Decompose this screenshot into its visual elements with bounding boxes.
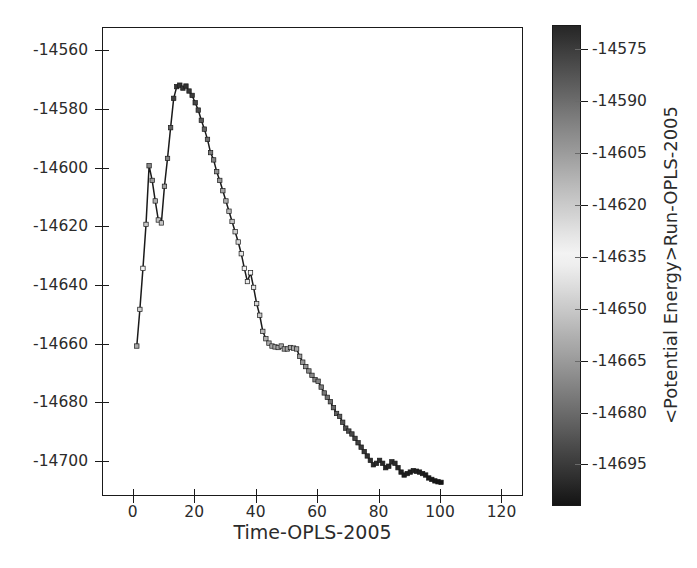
colorbar-tick-label: -14590	[592, 92, 647, 110]
colorbar-tick-label: -14620	[592, 196, 647, 214]
y-tick-mark	[95, 402, 102, 403]
data-point-marker	[236, 240, 240, 244]
x-tick-mark-inner	[317, 489, 318, 495]
colorbar-tick-label: -14665	[592, 352, 647, 370]
colorbar-tick-mark-inner	[575, 205, 581, 206]
x-tick-mark-inner	[256, 489, 257, 495]
data-point-marker	[356, 441, 360, 445]
data-point-marker	[239, 252, 243, 256]
data-point-marker	[205, 137, 209, 141]
data-point-marker	[328, 400, 332, 404]
data-point-marker	[337, 414, 341, 418]
y-tick-mark-inner	[103, 226, 109, 227]
colorbar-tick-label: -14635	[592, 248, 647, 266]
y-tick-label: -14620	[0, 217, 88, 235]
colorbar-tick-label: -14650	[592, 300, 647, 318]
colorbar-tick-mark	[581, 153, 588, 154]
y-tick-mark	[95, 168, 102, 169]
y-tick-mark	[95, 461, 102, 462]
colorbar-tick-mark-inner	[575, 257, 581, 258]
colorbar-tick-mark	[581, 309, 588, 310]
data-point-marker	[254, 301, 258, 305]
x-tick-label: 60	[307, 503, 327, 521]
data-point-marker	[322, 391, 326, 395]
colorbar-tick-mark	[581, 101, 588, 102]
data-point-marker	[365, 454, 369, 458]
colorbar-tick-label: -14695	[592, 455, 647, 473]
data-point-marker	[150, 178, 154, 182]
data-point-marker	[224, 199, 228, 203]
data-point-marker	[138, 307, 142, 311]
line-plot-svg	[103, 28, 524, 497]
data-point-marker	[147, 164, 151, 168]
data-point-marker	[165, 156, 169, 160]
x-tick-label: 20	[184, 503, 204, 521]
data-point-marker	[208, 150, 212, 154]
y-tick-mark	[95, 344, 102, 345]
data-point-marker	[202, 127, 206, 131]
y-tick-label: -14660	[0, 335, 88, 353]
colorbar-tick-mark-inner	[575, 153, 581, 154]
colorbar-tick-mark-inner	[575, 413, 581, 414]
data-point-marker	[248, 271, 252, 275]
x-axis-label: Time-OPLS-2005	[102, 521, 523, 543]
data-point-marker	[362, 449, 366, 453]
x-tick-mark	[133, 496, 134, 503]
y-tick-mark	[95, 109, 102, 110]
data-point-marker	[316, 379, 320, 383]
data-point-marker	[368, 458, 372, 462]
data-point-marker	[218, 178, 222, 182]
colorbar-tick-mark-inner	[575, 464, 581, 465]
data-point-marker	[144, 222, 148, 226]
data-point-marker	[162, 184, 166, 188]
data-point-marker	[251, 285, 255, 289]
data-point-marker	[439, 480, 443, 484]
data-point-marker	[294, 347, 298, 351]
data-point-marker	[319, 385, 323, 389]
data-point-marker	[258, 313, 262, 317]
y-tick-mark-inner	[103, 285, 109, 286]
data-line	[137, 85, 441, 482]
data-point-marker	[135, 344, 139, 348]
colorbar-tick-mark	[581, 205, 588, 206]
data-point-marker	[168, 125, 172, 129]
data-point-marker	[184, 84, 188, 88]
x-tick-label: 40	[246, 503, 266, 521]
colorbar-tick-mark-inner	[575, 49, 581, 50]
x-tick-mark	[501, 496, 502, 503]
y-tick-mark-inner	[103, 50, 109, 51]
colorbar-tick-mark	[581, 464, 588, 465]
colorbar-tick-mark	[581, 361, 588, 362]
x-tick-mark-inner	[440, 489, 441, 495]
y-tick-mark-inner	[103, 402, 109, 403]
y-tick-label: -14600	[0, 159, 88, 177]
data-point-marker	[159, 221, 163, 225]
data-point-marker	[304, 364, 308, 368]
data-point-marker	[141, 266, 145, 270]
x-tick-mark	[317, 496, 318, 503]
data-point-marker	[227, 209, 231, 213]
data-point-marker	[171, 96, 175, 100]
y-tick-label: -14580	[0, 100, 88, 118]
y-tick-mark	[95, 285, 102, 286]
data-point-marker	[242, 266, 246, 270]
data-point-marker	[193, 101, 197, 105]
data-point-marker	[187, 89, 191, 93]
x-tick-mark-inner	[133, 489, 134, 495]
x-tick-label: 120	[487, 503, 517, 521]
y-tick-mark	[95, 50, 102, 51]
data-point-marker	[396, 465, 400, 469]
x-tick-mark-inner	[194, 489, 195, 495]
x-tick-label: 0	[128, 503, 138, 521]
data-point-marker	[387, 464, 391, 468]
y-tick-label: -14640	[0, 276, 88, 294]
data-point-marker	[310, 373, 314, 377]
data-point-marker	[264, 337, 268, 341]
data-point-marker	[190, 93, 194, 97]
y-tick-mark-inner	[103, 168, 109, 169]
data-point-marker	[215, 169, 219, 173]
data-point-marker	[325, 395, 329, 399]
x-tick-mark	[379, 496, 380, 503]
data-point-marker	[245, 279, 249, 283]
data-point-marker	[331, 405, 335, 409]
